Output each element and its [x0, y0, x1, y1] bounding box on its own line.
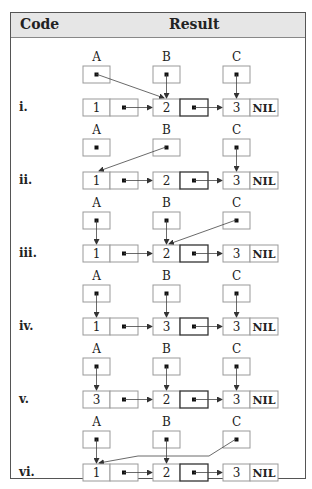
- nil-label: NIL: [253, 248, 276, 261]
- pointer-name-b: B: [162, 342, 171, 356]
- pointer-name-b: B: [162, 123, 171, 137]
- pointer-name-b: B: [162, 269, 171, 283]
- node-value: 2: [163, 247, 171, 261]
- row-label: i.: [19, 100, 28, 114]
- pointer-dot-icon: [95, 146, 99, 150]
- row-label: v.: [19, 392, 29, 406]
- node-value: 1: [93, 466, 101, 480]
- pointer-name-a: A: [91, 269, 101, 283]
- node-value: 1: [93, 247, 101, 261]
- node-value: 2: [163, 101, 171, 115]
- pointer-name-c: C: [232, 269, 241, 283]
- nil-label: NIL: [253, 321, 276, 334]
- pointer-name-a: A: [91, 342, 101, 356]
- linked-list-diagram: ABC123NILABC123NILABC123NILABC133NILABC3…: [0, 0, 312, 489]
- pointer-name-c: C: [232, 123, 241, 137]
- row-label: iv.: [19, 319, 34, 333]
- row-label: ii.: [19, 173, 32, 187]
- pointer-name-b: B: [162, 415, 171, 429]
- node-value: 1: [93, 101, 101, 115]
- row-3: ABC123NIL: [83, 196, 278, 262]
- pointer-name-b: B: [162, 50, 171, 64]
- row-1: ABC123NIL: [83, 50, 278, 116]
- pointer-name-c: C: [232, 415, 241, 429]
- pointer-name-b: B: [162, 196, 171, 210]
- row-label: vi.: [19, 465, 35, 479]
- node-value: 1: [93, 320, 101, 334]
- nil-label: NIL: [253, 102, 276, 115]
- pointer-name-a: A: [91, 196, 101, 210]
- row-label: iii.: [19, 246, 37, 260]
- node-value: 3: [233, 101, 241, 115]
- nil-label: NIL: [253, 175, 276, 188]
- node-value: 3: [93, 393, 101, 407]
- node-value: 3: [233, 466, 241, 480]
- node-value: 3: [233, 393, 241, 407]
- pointer-name-a: A: [91, 123, 101, 137]
- node-value: 3: [163, 320, 171, 334]
- nil-label: NIL: [253, 394, 276, 407]
- node-value: 3: [233, 320, 241, 334]
- pointer-name-c: C: [232, 196, 241, 210]
- row-5: ABC323NIL: [83, 342, 278, 408]
- row-6: ABC123NIL: [83, 415, 278, 481]
- nil-label: NIL: [253, 467, 276, 480]
- row-2: ABC123NIL: [83, 123, 278, 189]
- pointer-name-a: A: [91, 415, 101, 429]
- node-value: 3: [233, 174, 241, 188]
- node-value: 2: [163, 393, 171, 407]
- pointer-name-a: A: [91, 50, 101, 64]
- pointer-name-c: C: [232, 342, 241, 356]
- pointer-name-c: C: [232, 50, 241, 64]
- row-4: ABC133NIL: [83, 269, 278, 335]
- node-value: 2: [163, 174, 171, 188]
- node-value: 3: [233, 247, 241, 261]
- node-value: 1: [93, 174, 101, 188]
- node-value: 2: [163, 466, 171, 480]
